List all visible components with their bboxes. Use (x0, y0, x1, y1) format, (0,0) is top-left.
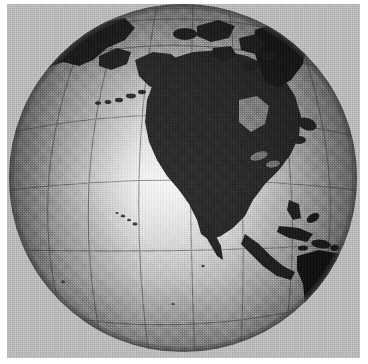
scan-plate (7, 4, 360, 358)
globe-svg (7, 4, 360, 358)
globe (7, 4, 360, 358)
globe-figure (0, 0, 368, 364)
